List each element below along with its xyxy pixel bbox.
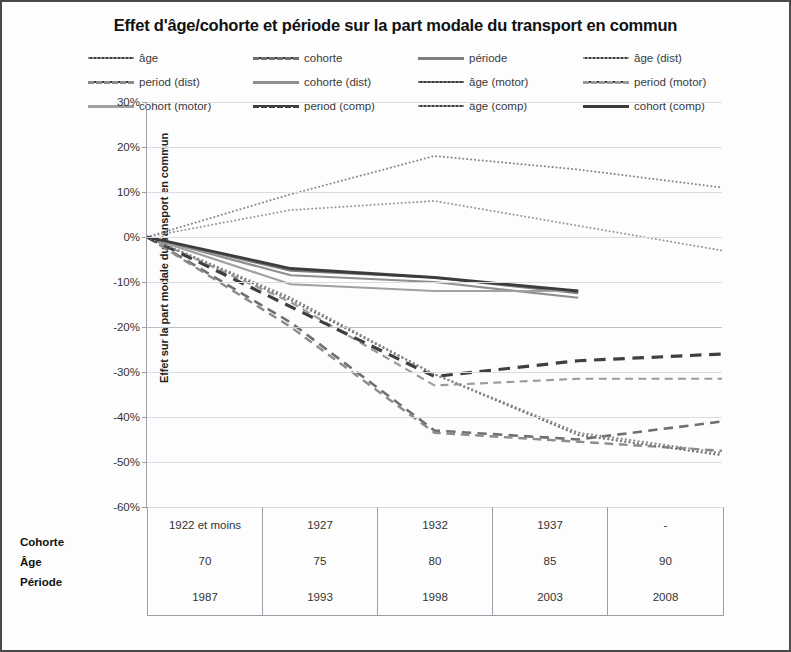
category-row-label: Période [20, 572, 140, 592]
y-axis-tick-label: -30% [94, 366, 140, 378]
category-cell: 1993 [263, 579, 378, 615]
legend-item[interactable]: âge [88, 52, 253, 64]
category-cell: 1937 [493, 507, 608, 543]
y-axis-tickmark [142, 327, 147, 328]
legend-item-label: âge [139, 52, 158, 64]
y-axis-tickmark [142, 237, 147, 238]
gridline [147, 102, 722, 103]
y-axis-tickmark [142, 192, 147, 193]
category-table: 1922 et moins192719321937-70758085901987… [147, 507, 724, 616]
y-axis-tickmark [142, 102, 147, 103]
category-cell: 85 [493, 543, 608, 579]
y-axis-tick-label: 30% [94, 96, 140, 108]
y-axis-tickmark [142, 417, 147, 418]
chart-series-svg [147, 102, 722, 507]
category-cell: - [608, 507, 723, 543]
category-cell: 70 [148, 543, 263, 579]
category-cell: 1998 [378, 579, 493, 615]
category-row-labels: CohorteÂgePériode [20, 532, 140, 592]
legend-item[interactable]: âge (motor) [418, 76, 583, 88]
legend-item-label: period (motor) [634, 76, 706, 88]
legend-item[interactable]: âge (dist) [583, 52, 748, 64]
gridline [147, 282, 722, 283]
category-cell: 2008 [608, 579, 723, 615]
gridline [147, 147, 722, 148]
series-line [147, 156, 722, 237]
series-line [147, 237, 722, 455]
gridline [147, 372, 722, 373]
legend-item[interactable]: période [418, 52, 583, 64]
gridline [147, 327, 722, 328]
y-axis-tickmark [142, 147, 147, 148]
legend-item-label: period (dist) [139, 76, 200, 88]
category-cell: 80 [378, 543, 493, 579]
y-axis-tick-label: 10% [94, 186, 140, 198]
legend-item-label: période [469, 52, 507, 64]
legend-item-label: âge (motor) [469, 76, 528, 88]
y-axis-tickmark [142, 462, 147, 463]
chart-figure: Effet d'âge/cohorte et période sur la pa… [0, 0, 791, 652]
series-line [147, 237, 722, 451]
y-axis-tickmark [142, 372, 147, 373]
plot-area: Effet sur la part modale du transport en… [147, 102, 722, 507]
category-row-label: Cohorte [20, 532, 140, 552]
y-axis-tickmark [142, 282, 147, 283]
y-axis-tick-label: -10% [94, 276, 140, 288]
y-axis-tick-label: 20% [94, 141, 140, 153]
category-cell: 75 [263, 543, 378, 579]
category-cell: 2003 [493, 579, 608, 615]
series-line [147, 201, 722, 251]
category-cell: 1922 et moins [148, 507, 263, 543]
category-cell: 1987 [148, 579, 263, 615]
category-row-label: Âge [20, 552, 140, 572]
legend-item[interactable]: cohorte (dist) [253, 76, 418, 88]
legend-item-label: cohorte (dist) [304, 76, 371, 88]
gridline [147, 462, 722, 463]
legend-item[interactable]: period (motor) [583, 76, 748, 88]
y-axis-tick-label: -40% [94, 411, 140, 423]
category-cell: 1927 [263, 507, 378, 543]
y-axis-tick-label: -60% [94, 501, 140, 513]
y-axis-tick-label: 0% [94, 231, 140, 243]
legend-item-label: cohorte [304, 52, 342, 64]
gridline [147, 192, 722, 193]
legend-item[interactable]: period (dist) [88, 76, 253, 88]
gridline [147, 417, 722, 418]
category-cell: 90 [608, 543, 723, 579]
gridline [147, 237, 722, 238]
legend-item-label: âge (dist) [634, 52, 682, 64]
page-title: Effet d'âge/cohorte et période sur la pa… [2, 16, 789, 35]
series-line [147, 237, 722, 440]
category-cell: 1932 [378, 507, 493, 543]
y-axis-tick-label: -50% [94, 456, 140, 468]
y-axis-tick-label: -20% [94, 321, 140, 333]
series-line [147, 237, 722, 453]
legend-item[interactable]: cohorte [253, 52, 418, 64]
